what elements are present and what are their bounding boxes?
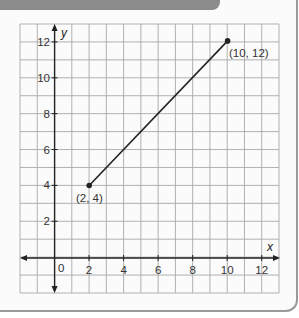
x-tick-label: 8 bbox=[189, 264, 195, 276]
y-axis-label: y bbox=[60, 26, 68, 40]
coordinate-plane: 2468101224681012 y x 0 (2, 4) (10, 12) bbox=[0, 0, 299, 318]
y-tick-label: 4 bbox=[44, 179, 51, 191]
y-tick-label: 2 bbox=[44, 215, 50, 227]
x-tick-label: 10 bbox=[221, 264, 234, 276]
y-tick-label: 10 bbox=[37, 72, 50, 84]
x-axis-label: x bbox=[266, 240, 274, 254]
x-axis-left-arrow-icon bbox=[20, 255, 27, 261]
point-start-label: (2, 4) bbox=[76, 192, 103, 204]
point-end-label: (10, 12) bbox=[229, 47, 269, 59]
y-tick-label: 8 bbox=[44, 108, 50, 120]
point-end bbox=[225, 38, 231, 44]
x-tick-label: 2 bbox=[86, 264, 92, 276]
x-tick-label: 6 bbox=[155, 264, 161, 276]
axes bbox=[20, 24, 280, 293]
origin-label: 0 bbox=[58, 262, 64, 274]
y-tick-label: 12 bbox=[37, 36, 50, 48]
grid bbox=[20, 24, 279, 293]
y-axis-up-arrow-icon bbox=[52, 24, 58, 31]
y-axis-down-arrow-icon bbox=[52, 286, 58, 293]
y-tick-label: 6 bbox=[44, 144, 50, 156]
x-tick-label: 4 bbox=[120, 264, 127, 276]
point-start bbox=[86, 183, 92, 189]
x-tick-label: 12 bbox=[255, 264, 268, 276]
